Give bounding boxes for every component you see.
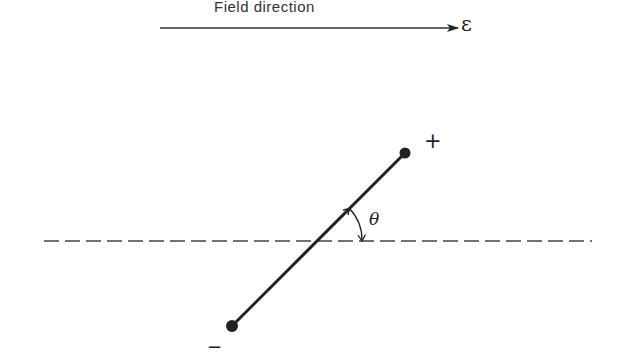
angle-arc	[350, 209, 363, 242]
positive-charge-dot	[400, 148, 411, 159]
angle-theta-label: θ	[369, 209, 379, 229]
dipole-axis	[232, 153, 405, 326]
field-symbol: ε	[461, 12, 472, 36]
dipole-diagram	[0, 0, 622, 362]
positive-sign: +	[424, 129, 442, 153]
negative-sign: −	[207, 336, 222, 357]
negative-charge-dot	[226, 320, 238, 332]
field-direction-label: Field direction	[214, 0, 315, 15]
